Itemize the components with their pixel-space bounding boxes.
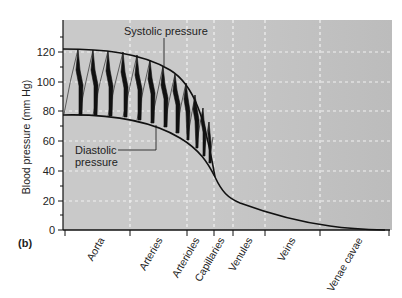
svg-text:Veins: Veins bbox=[274, 235, 297, 263]
diastolic-label-line2: pressure bbox=[75, 156, 118, 168]
svg-text:40: 40 bbox=[43, 165, 55, 177]
svg-text:0: 0 bbox=[49, 224, 55, 236]
svg-text:80: 80 bbox=[43, 105, 55, 117]
x-ticks bbox=[65, 230, 389, 236]
svg-text:100: 100 bbox=[37, 76, 55, 88]
y-axis-label: Blood pressure (mm Hg) bbox=[20, 80, 32, 194]
blood-pressure-chart: 0 20 40 60 80 100 120 Blood pressure (mm… bbox=[0, 0, 402, 298]
svg-text:Venae cavae: Venae cavae bbox=[324, 235, 365, 294]
svg-text:120: 120 bbox=[37, 46, 55, 58]
svg-text:Aorta: Aorta bbox=[84, 235, 107, 263]
svg-text:60: 60 bbox=[43, 135, 55, 147]
svg-text:Venules: Venules bbox=[226, 235, 255, 273]
panel-label: (b) bbox=[18, 237, 32, 249]
diastolic-label-line1: Diastolic bbox=[75, 144, 117, 156]
svg-text:Arteries: Arteries bbox=[136, 235, 164, 272]
y-tick-labels: 0 20 40 60 80 100 120 bbox=[37, 46, 55, 236]
svg-text:20: 20 bbox=[43, 195, 55, 207]
systolic-label: Systolic pressure bbox=[124, 25, 208, 37]
x-category-labels: Aorta Arteries Arterioles Capillaries Ve… bbox=[84, 235, 365, 294]
y-ticks bbox=[58, 37, 63, 230]
